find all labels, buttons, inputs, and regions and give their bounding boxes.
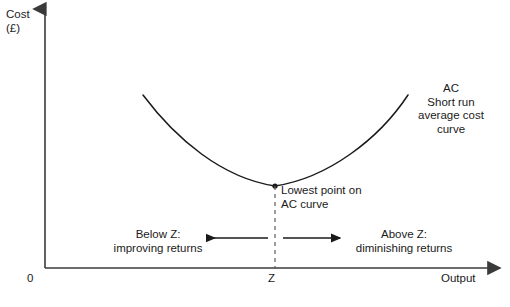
x-axis-label: Output xyxy=(441,272,476,286)
cost-output-diagram xyxy=(0,0,510,307)
figure-container: Cost (£) Output 0 Z AC Short run average… xyxy=(0,0,510,307)
ac-curve-label: AC Short run average cost curve xyxy=(399,82,503,136)
origin-label: 0 xyxy=(27,272,33,286)
average-cost-curve xyxy=(143,95,408,186)
above-z-region-label: Above Z: diminishing returns xyxy=(344,228,464,255)
lowest-point-label: Lowest point on AC curve xyxy=(281,184,362,211)
y-axis-label: Cost (£) xyxy=(6,8,30,35)
z-tick-label: Z xyxy=(268,272,275,286)
below-z-region-label: Below Z: improving returns xyxy=(110,228,206,255)
